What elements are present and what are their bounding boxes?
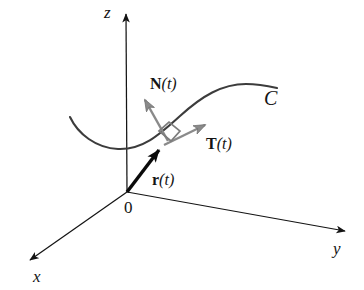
position-vector-label: r(t) [152,172,174,188]
unit-tangent-vector-label: T(t) [206,136,232,152]
unit-tangent-vector-label-arg: (t) [217,135,232,152]
y-axis [127,192,345,231]
unit-tangent-vector-label-symbol: T [206,135,217,152]
unit-normal-vector-label: N(t) [150,76,177,92]
z-axis [126,14,127,192]
x-axis [30,192,127,260]
unit-normal-vector-label-arg: (t) [162,75,177,92]
unit-tangent-vector-arrow [164,125,205,145]
diagram-canvas [0,0,364,290]
x-axis-label: x [33,268,41,285]
z-axis-label: z [104,4,111,21]
vector-calculus-diagram: z y x 0 C r(t) T(t) N(t) [0,0,364,290]
origin-label: 0 [124,199,133,216]
y-axis-label: y [333,240,341,257]
unit-normal-vector-label-symbol: N [150,75,162,92]
curve-label: C [264,88,277,108]
position-vector-label-arg: (t) [159,171,174,188]
